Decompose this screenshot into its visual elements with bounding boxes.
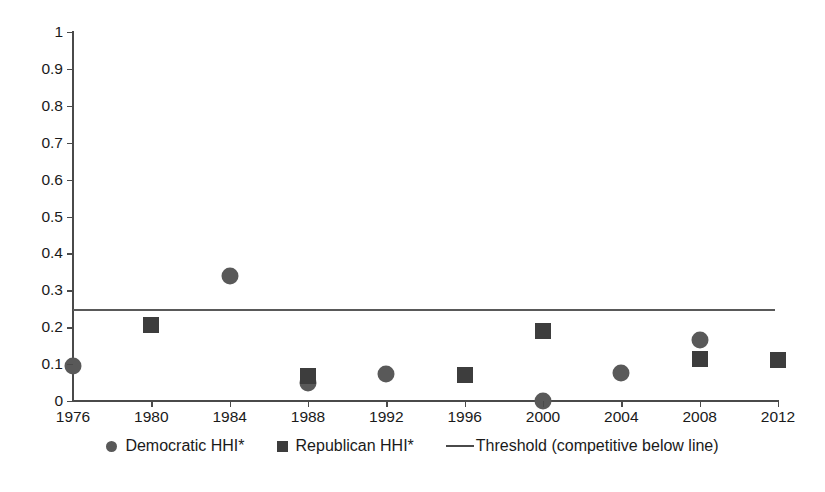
y-axis-tick-label: 1 [54,24,63,40]
y-axis-tick [67,290,73,291]
x-axis-tick [700,401,701,407]
x-axis-tick-label: 1988 [291,409,325,425]
x-axis-tick [151,401,152,407]
y-axis-tick [67,401,73,402]
data-point-democratic [378,366,395,383]
square-marker-icon [277,441,288,452]
legend-label-threshold: Threshold (competitive below line) [476,437,719,455]
y-axis-tick-label: 0 [54,393,63,409]
x-axis-tick-label: 2000 [526,409,560,425]
y-axis-tick [67,364,73,365]
x-axis-tick [230,401,231,407]
data-point-republican [457,367,473,383]
y-axis-tick [67,327,73,328]
y-axis-tick [67,253,73,254]
scatter-chart: 00.10.20.30.40.50.60.70.80.91 1976198019… [0,0,825,492]
data-point-republican [300,368,316,384]
x-axis-tick [308,401,309,407]
y-axis-tick-label: 0.3 [41,283,63,299]
data-point-democratic [613,364,630,381]
legend-label-democratic: Democratic HHI* [125,437,244,455]
y-axis-tick-label: 0.4 [41,246,63,262]
x-axis-tick-label: 2004 [604,409,638,425]
y-axis-tick-label: 0.7 [41,135,63,151]
circle-marker-icon [106,441,117,452]
data-point-democratic [221,267,238,284]
y-axis-tick [67,69,73,70]
data-point-democratic [65,357,82,374]
x-axis-tick [386,401,387,407]
legend-label-republican: Republican HHI* [296,437,414,455]
threshold-line [73,309,775,311]
x-axis-tick-label: 1980 [134,409,168,425]
data-point-republican [143,317,159,333]
y-axis-tick [67,180,73,181]
x-axis-tick-label: 1996 [447,409,481,425]
x-axis-tick [621,401,622,407]
y-axis-tick [67,217,73,218]
x-axis-tick-label: 2008 [682,409,716,425]
y-axis-tick-label: 0.9 [41,61,63,77]
x-axis-tick [778,401,779,407]
y-axis-tick-label: 0.8 [41,98,63,114]
data-point-republican [770,352,786,368]
line-swatch-icon [446,445,474,447]
x-axis-tick-label: 2012 [761,409,795,425]
x-axis-tick-label: 1976 [56,409,90,425]
y-axis-tick-label: 0.5 [41,209,63,225]
legend-item-democratic: Democratic HHI* [106,437,244,455]
data-point-democratic [691,332,708,349]
y-axis-tick [67,143,73,144]
x-axis-tick-label: 1984 [212,409,246,425]
data-point-republican [692,351,708,367]
data-point-republican [535,323,551,339]
plot-area [73,32,778,401]
y-axis-tick [67,32,73,33]
x-axis-tick [465,401,466,407]
legend-item-threshold: Threshold (competitive below line) [446,437,719,455]
x-axis-tick-label: 1992 [369,409,403,425]
y-axis-tick [67,106,73,107]
chart-legend: Democratic HHI* Republican HHI* Threshol… [0,437,825,455]
x-axis-tick [543,401,544,407]
y-axis-tick-label: 0.6 [41,172,63,188]
legend-item-republican: Republican HHI* [277,437,414,455]
y-axis-tick-label: 0.2 [41,319,63,335]
y-axis-tick-label: 0.1 [41,356,63,372]
